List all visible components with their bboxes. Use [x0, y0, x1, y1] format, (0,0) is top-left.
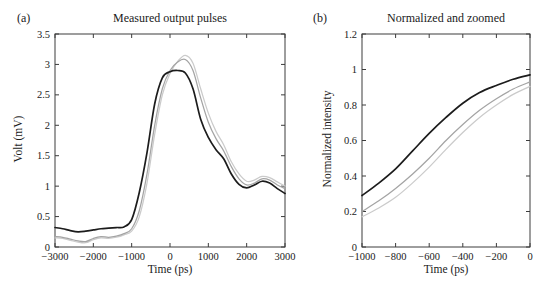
- y-tick-label: 3.5: [37, 29, 50, 40]
- panel-a-tag: (a): [17, 11, 30, 26]
- y-tick-label: 0.4: [344, 171, 358, 182]
- x-tick-label: −400: [452, 251, 474, 262]
- y-tick-label: 1: [352, 64, 357, 75]
- x-tick-label: −1000: [349, 251, 376, 262]
- y-tick-label: 0: [45, 242, 50, 253]
- x-tick-label: −3000: [42, 251, 69, 262]
- panel-a-x-axis-label: Time (ps): [55, 263, 285, 275]
- y-tick-label: 0.5: [37, 211, 50, 222]
- panel-b-title: Normalized and zoomed: [362, 11, 530, 26]
- dual-panel-figure: −3000−2000−1000010002000300000.511.522.5…: [0, 0, 559, 294]
- panel-a-title: Measured output pulses: [55, 11, 285, 26]
- panel-b-tag: (b): [313, 11, 327, 26]
- panel-a-y-axis-label: Volt (mV): [12, 33, 24, 246]
- x-tick-label: −1000: [118, 251, 145, 262]
- x-tick-label: 3000: [275, 251, 296, 262]
- plot-canvas: −3000−2000−1000010002000300000.511.522.5…: [0, 0, 559, 294]
- x-tick-label: 2000: [236, 251, 257, 262]
- series-line-gray-pulse: [55, 59, 285, 242]
- panel-b-plot: −1000−800−600−400−200000.20.40.60.811.2: [344, 29, 533, 263]
- x-tick-label: −800: [385, 251, 407, 262]
- y-tick-label: 0.8: [344, 100, 357, 111]
- y-tick-label: 0: [352, 242, 357, 253]
- x-tick-label: 1000: [198, 251, 219, 262]
- x-tick-label: −2000: [80, 251, 107, 262]
- x-tick-label: 0: [167, 251, 172, 262]
- x-tick-label: 0: [527, 251, 532, 262]
- x-tick-label: −200: [486, 251, 508, 262]
- plot-frame: [55, 34, 285, 247]
- y-tick-label: 1: [45, 181, 50, 192]
- series-line-light-gray-rise: [362, 86, 530, 216]
- y-tick-label: 1.5: [37, 150, 50, 161]
- series-line-light-gray-pulse: [55, 55, 285, 243]
- y-tick-label: 2: [45, 120, 50, 131]
- y-tick-label: 0.6: [344, 135, 357, 146]
- y-tick-label: 3: [45, 59, 50, 70]
- series-line-black-pulse: [55, 70, 285, 231]
- y-tick-label: 1.2: [344, 29, 357, 40]
- series-line-gray-rise: [362, 82, 530, 212]
- x-tick-label: −600: [418, 251, 440, 262]
- panel-b-x-axis-label: Time (ps): [362, 263, 530, 275]
- y-tick-label: 2.5: [37, 89, 50, 100]
- panel-a-plot: −3000−2000−1000010002000300000.511.522.5…: [37, 29, 296, 263]
- panel-b-y-axis-label: Normalized intensity: [321, 33, 333, 246]
- y-tick-label: 0.2: [344, 206, 357, 217]
